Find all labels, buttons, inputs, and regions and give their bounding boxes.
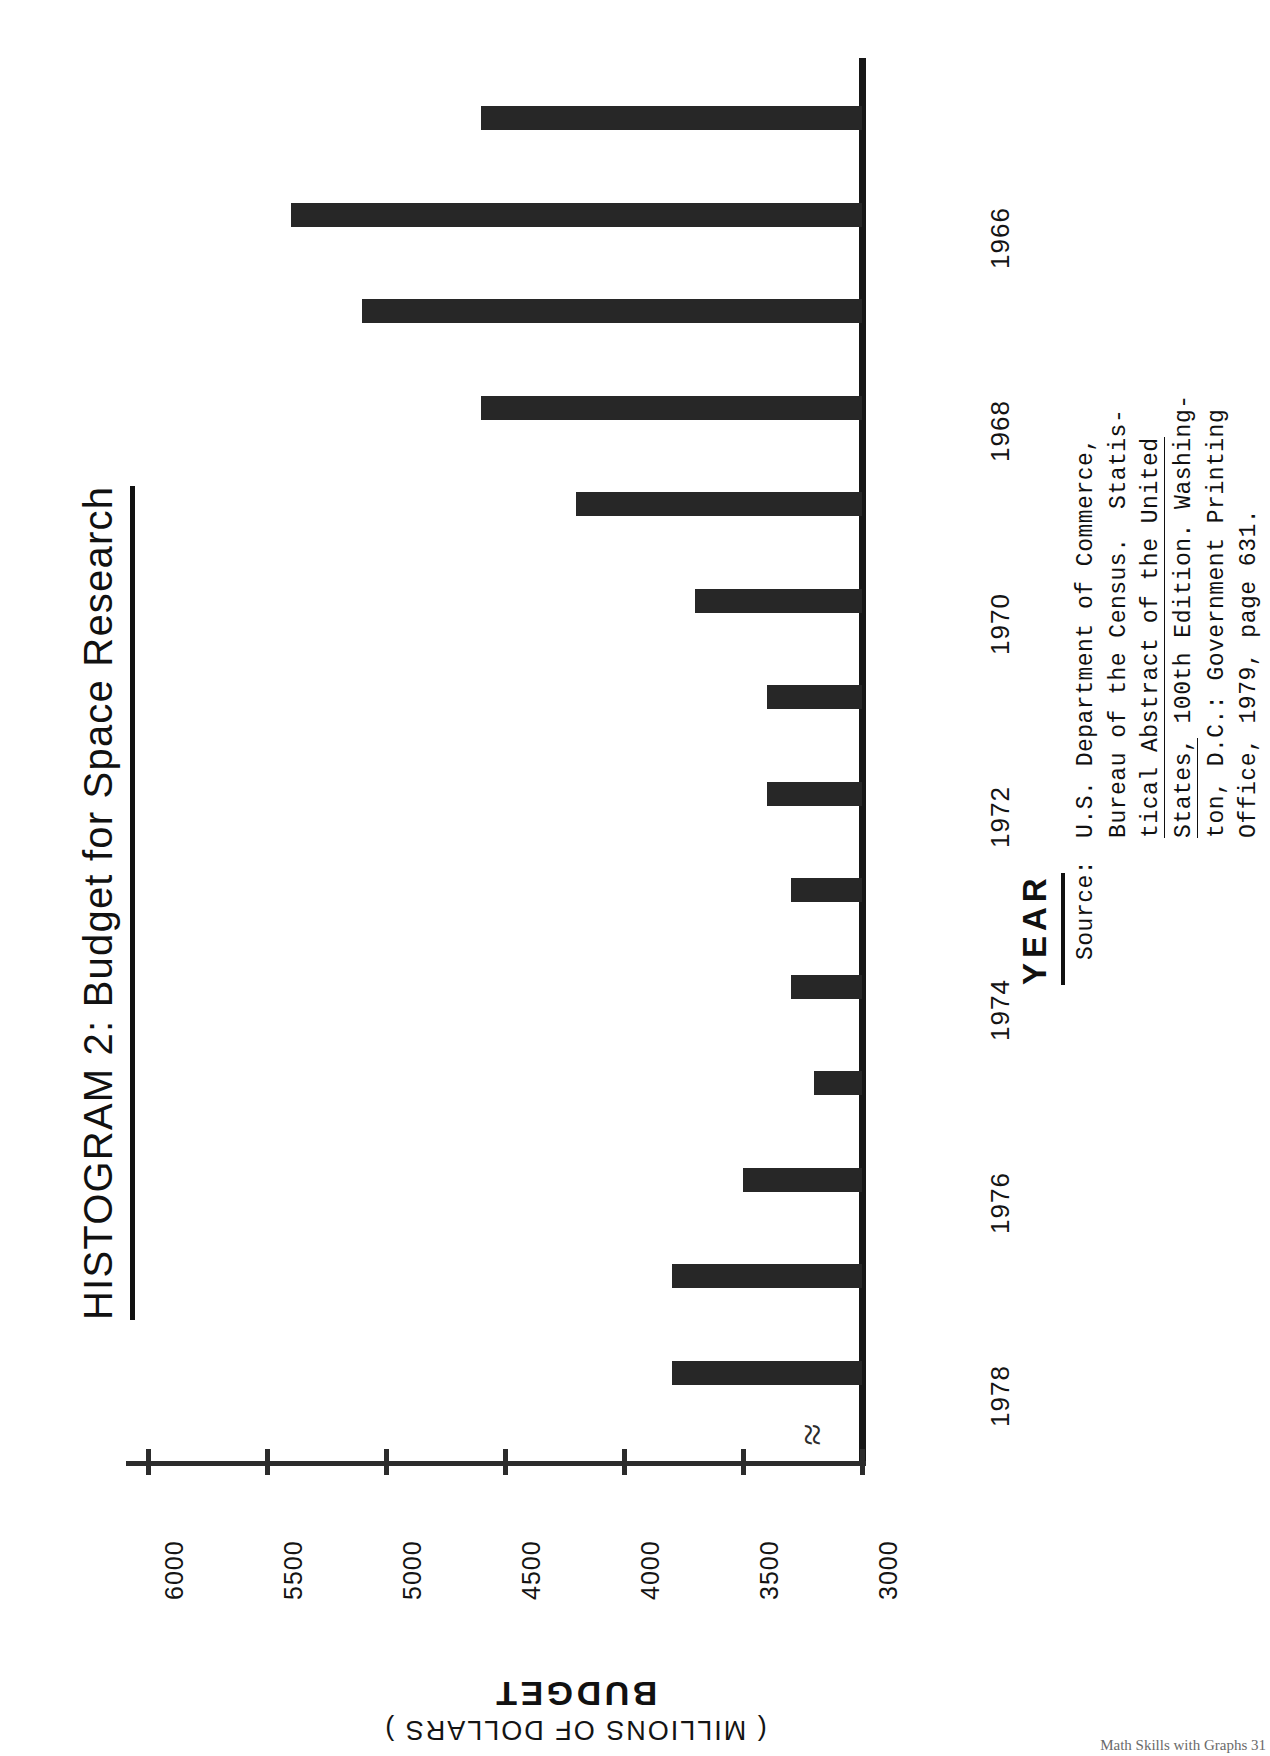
value-axis-title: ( MILLIONS OF DOLLARS ) BUDGET	[245, 1673, 905, 1745]
bar	[767, 782, 862, 806]
value-tick	[265, 1449, 270, 1475]
source-label: Source:	[1070, 860, 1103, 960]
category-tick-label: 1974	[985, 979, 1016, 1041]
category-tick-label: 1976	[985, 1172, 1016, 1234]
bar	[576, 492, 862, 516]
page-title: HISTOGRAM 2: Budget for Space Research	[76, 486, 135, 1320]
value-tick	[860, 1449, 865, 1475]
value-tick	[622, 1449, 627, 1475]
source-note: Source: U.S. Department of Commerce,Bure…	[1070, 394, 1266, 960]
bar	[767, 685, 862, 709]
value-tick-label: 3500	[755, 1540, 784, 1600]
category-tick-label: 1966	[985, 207, 1016, 269]
bar	[481, 396, 862, 420]
category-axis-title: YEAR	[1016, 873, 1065, 985]
bar	[672, 1264, 862, 1288]
figure-canvas: HISTOGRAM 2: Budget for Space Research ≈…	[0, 0, 1270, 1756]
value-axis-units: ( MILLIONS OF DOLLARS )	[245, 1714, 905, 1745]
category-tick-label: 1972	[985, 786, 1016, 848]
bar	[481, 106, 862, 130]
value-tick	[503, 1449, 508, 1475]
source-line: U.S. Department of Commerce,	[1070, 394, 1103, 837]
bar	[291, 203, 862, 227]
page-footer: Math Skills with Graphs 31	[1100, 1737, 1266, 1754]
bar	[695, 589, 862, 613]
bar	[814, 1071, 862, 1095]
value-tick	[146, 1449, 151, 1475]
value-tick-label: 6000	[160, 1540, 189, 1600]
source-lines: U.S. Department of Commerce,Bureau of th…	[1070, 394, 1266, 837]
source-line: States, 100th Edition. Washing-	[1168, 394, 1201, 837]
axis-break-icon: ≈	[789, 1424, 836, 1440]
category-axis-title-text: YEAR	[1016, 873, 1065, 985]
category-tick-label: 1978	[985, 1365, 1016, 1427]
source-line: ton, D.C.: Government Printing	[1201, 394, 1234, 837]
bar	[362, 299, 862, 323]
bar	[791, 878, 862, 902]
page-title-text: HISTOGRAM 2: Budget for Space Research	[76, 486, 135, 1320]
value-tick-label: 4500	[517, 1540, 546, 1600]
value-tick-label: 5500	[279, 1540, 308, 1600]
source-line: Office, 1979, page 631.	[1233, 394, 1266, 837]
value-tick-label: 4000	[636, 1540, 665, 1600]
category-axis-line	[859, 58, 866, 1466]
source-line: tical Abstract of the United	[1135, 394, 1168, 837]
bar	[743, 1168, 862, 1192]
category-tick-label: 1970	[985, 593, 1016, 655]
bar	[672, 1361, 862, 1385]
value-tick-label: 5000	[398, 1540, 427, 1600]
source-line: Bureau of the Census. Statis-	[1103, 394, 1136, 837]
value-axis-name: BUDGET	[245, 1673, 905, 1714]
value-tick-label: 3000	[874, 1540, 903, 1600]
value-tick	[384, 1449, 389, 1475]
category-tick-label: 1968	[985, 400, 1016, 462]
bar	[791, 975, 862, 999]
value-tick	[741, 1449, 746, 1475]
value-axis-line	[126, 1461, 866, 1466]
